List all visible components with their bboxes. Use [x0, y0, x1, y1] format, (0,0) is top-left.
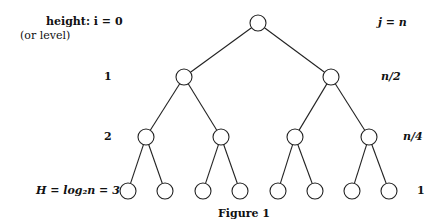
tree-node-level-3 — [307, 183, 323, 199]
tree-node-level-3 — [195, 183, 211, 199]
tree-node-level-2 — [213, 129, 229, 145]
tree-node-level-3 — [157, 183, 173, 199]
level-0-right-label: j = n — [378, 17, 407, 29]
tree-edge — [298, 145, 312, 184]
tree-edge — [335, 84, 364, 130]
tree-node-level-1 — [323, 69, 339, 85]
tree-edge — [224, 145, 238, 184]
tree-node-level-2 — [138, 129, 154, 145]
tree-node-level-3 — [270, 183, 286, 199]
level-1-right-label: n/2 — [381, 71, 401, 83]
tree-node-level-2 — [287, 129, 303, 145]
tree-node-level-3 — [232, 183, 248, 199]
tree-node-level-2 — [361, 129, 377, 145]
tree-edge — [299, 84, 327, 130]
tree-node-level-3 — [120, 183, 136, 199]
tree-edge — [372, 145, 386, 184]
height-label: height: i = 0 — [46, 16, 123, 28]
tree-node-level-0 — [250, 15, 266, 31]
tree-edge — [206, 145, 219, 184]
level-note: (or level) — [20, 30, 70, 42]
tree-node-level-3 — [381, 183, 397, 199]
figure-caption: Figure 1 — [218, 208, 270, 220]
tree-edge — [149, 145, 163, 184]
level-3-right-label: 1 — [417, 185, 425, 197]
level-2-left-label: 2 — [104, 131, 112, 143]
level-2-right-label: n/4 — [403, 131, 423, 143]
tree-node-level-1 — [176, 69, 192, 85]
tree-edge — [188, 84, 217, 130]
tree-node-level-3 — [344, 183, 360, 199]
tree-edge — [264, 28, 324, 72]
tree-edge — [190, 28, 251, 73]
tree-edge — [280, 145, 292, 184]
tree-edge — [150, 84, 179, 130]
tree-edge — [354, 145, 366, 184]
level-3-left-label: H = log₂n = 3 — [36, 185, 120, 197]
tree-edge — [131, 145, 144, 184]
level-1-left-label: 1 — [104, 71, 112, 83]
height-label-text: height: i = 0 — [46, 15, 123, 28]
